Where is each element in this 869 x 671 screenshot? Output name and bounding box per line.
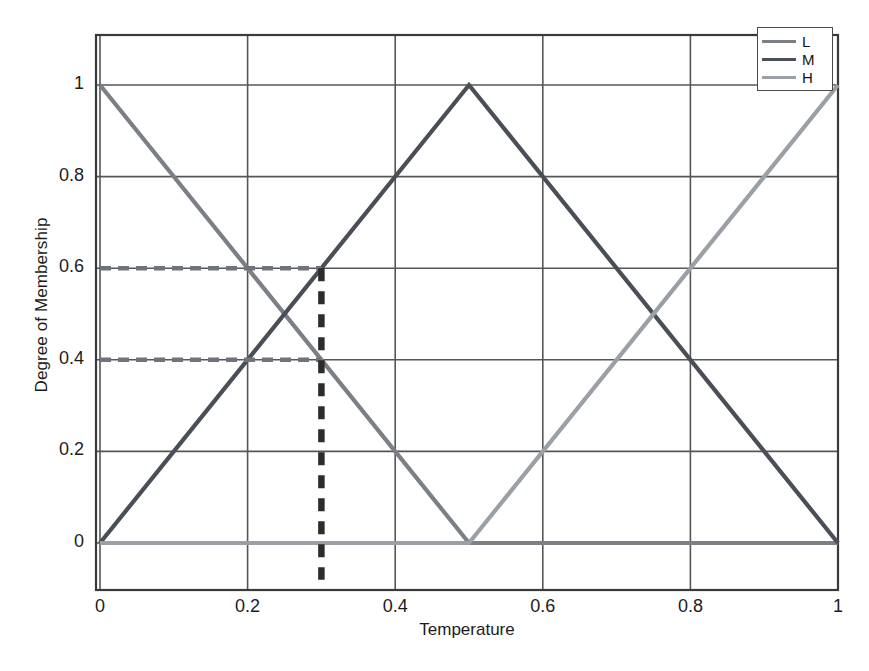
legend-item-m[interactable]: M [762,50,829,68]
legend-item-h[interactable]: H [762,68,829,86]
legend-label: L [802,34,810,49]
y-tick-label: 1 [32,73,84,94]
series-lines [100,85,838,543]
legend-label: M [802,52,815,67]
legend-swatch-icon [762,76,796,79]
x-tick-label: 0.4 [365,596,425,617]
y-tick-label: 0.8 [32,165,84,186]
legend-swatch-icon [762,58,796,61]
plot-area [0,0,869,671]
y-axis-title: Degree of Membership [32,145,52,465]
membership-function-chart: Degree of Membership Temperature 00.20.4… [0,0,869,671]
x-tick-label: 0 [70,596,130,617]
legend[interactable]: LMH [757,27,833,91]
x-tick-label: 0.6 [513,596,573,617]
x-tick-label: 1 [808,596,868,617]
annotation-lines [100,268,321,579]
series-line-h [100,85,838,543]
series-line-m [100,85,838,543]
y-tick-label: 0.2 [32,439,84,460]
x-tick-label: 0.2 [218,596,278,617]
series-line-l [100,85,838,543]
y-tick-label: 0.4 [32,348,84,369]
legend-swatch-icon [762,40,796,43]
legend-item-l[interactable]: L [762,32,829,50]
y-tick-label: 0.6 [32,256,84,277]
plot-frame-rect [96,35,838,590]
x-tick-label: 0.8 [660,596,720,617]
x-axis-title: Temperature [96,620,838,640]
plot-frame [96,35,838,590]
legend-label: H [802,70,813,85]
grid-lines [96,35,838,590]
y-tick-label: 0 [32,531,84,552]
